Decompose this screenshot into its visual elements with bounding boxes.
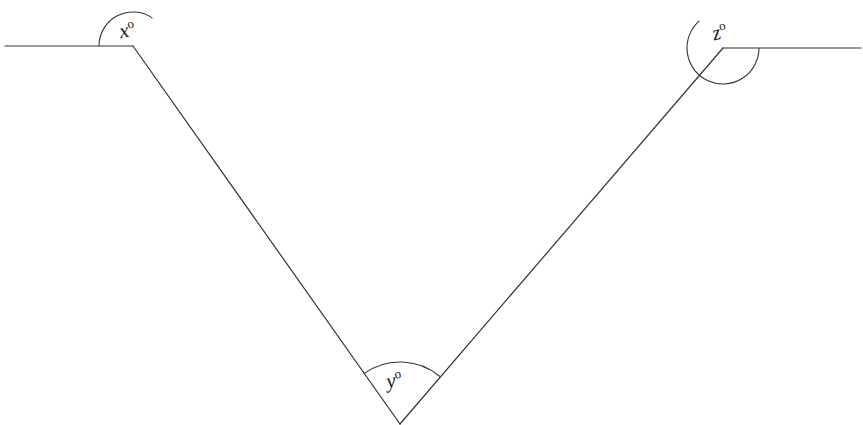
geometry-diagram-canvas: xo yo zo bbox=[0, 0, 863, 425]
right-ascending-segment bbox=[400, 48, 723, 424]
left-descending-segment bbox=[133, 46, 400, 424]
geometry-figure bbox=[0, 0, 863, 425]
angle-arc-y bbox=[364, 362, 440, 377]
